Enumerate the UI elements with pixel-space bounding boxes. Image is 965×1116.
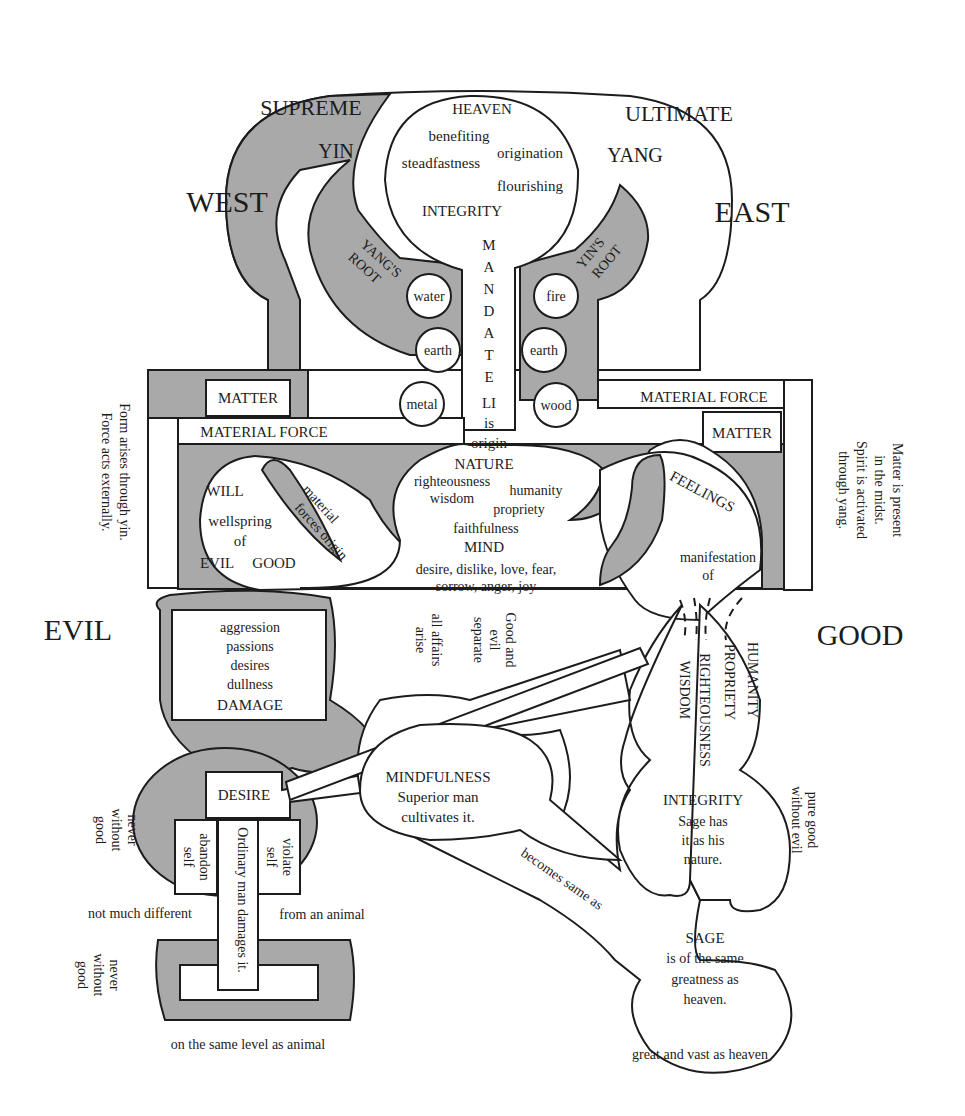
integrity-sage-title: INTEGRITY xyxy=(663,792,743,808)
label-ultimate: ULTIMATE xyxy=(625,101,733,126)
mind-title: MIND xyxy=(464,539,504,555)
svg-text:pure good: pure good xyxy=(805,792,820,848)
never-without-good-lower: never without good xyxy=(75,954,122,997)
svg-text:LI: LI xyxy=(482,395,496,411)
evil-structure xyxy=(133,591,384,1020)
feelings-of: of xyxy=(702,568,714,583)
label-yin: YIN xyxy=(318,140,354,162)
svg-text:arise: arise xyxy=(413,627,428,653)
will-good: GOOD xyxy=(252,555,295,571)
pure-good-label: pure good without evil xyxy=(789,786,820,853)
sage-title: SAGE xyxy=(685,930,724,946)
great-and-vast-label: great and vast as heaven xyxy=(632,1047,768,1062)
svg-text:separate: separate xyxy=(471,617,486,663)
label-evil: EVIL xyxy=(44,613,112,646)
will-wellspring: wellspring xyxy=(208,513,272,529)
mindfulness-line-1: Superior man xyxy=(397,789,479,805)
svg-text:all affairs: all affairs xyxy=(429,614,444,667)
nature-righteousness: righteousness xyxy=(414,474,490,489)
mindfulness-line-2: cultivates it. xyxy=(401,809,474,825)
svg-text:origin: origin xyxy=(471,435,507,451)
sage-line-1: is of the same xyxy=(666,951,743,966)
heaven-virtue-flourishing: flourishing xyxy=(497,178,563,194)
will-evil: EVIL xyxy=(200,555,234,571)
svg-text:self: self xyxy=(264,847,279,868)
label-yang: YANG xyxy=(607,144,663,166)
neo-confucian-diagram: SUPREME ULTIMATE WEST EAST EVIL GOOD HEA… xyxy=(0,0,965,1116)
side-note-left: Form arises through yin. Force acts exte… xyxy=(99,403,132,541)
virtue-wisdom: WISDOM xyxy=(677,661,692,720)
from-an-animal-label: from an animal xyxy=(279,907,365,922)
heaven-integrity: INTEGRITY xyxy=(422,203,502,219)
ordinary-man-label: Ordinary man damages it. xyxy=(235,827,250,972)
damage-dullness: dullness xyxy=(227,677,273,692)
nature-wisdom: wisdom xyxy=(430,491,474,506)
damage-passions: passions xyxy=(226,639,273,654)
heaven-title: HEAVEN xyxy=(452,101,512,117)
svg-text:A: A xyxy=(484,325,495,341)
mindfulness-title: MINDFULNESS xyxy=(385,769,490,785)
nature-humanity: humanity xyxy=(510,483,563,498)
damage-aggression: aggression xyxy=(220,620,280,635)
sage-line-2: greatness as xyxy=(671,972,738,987)
label-east: EAST xyxy=(715,195,790,228)
desire-title: DESIRE xyxy=(218,787,271,803)
feelings-manifestation: manifestation xyxy=(680,550,756,565)
svg-text:Good and: Good and xyxy=(503,613,518,668)
svg-text:Spirit is activated: Spirit is activated xyxy=(854,441,869,539)
element-fire-label: fire xyxy=(546,289,565,304)
nature-faithfulness: faithfulness xyxy=(453,521,518,536)
svg-text:good: good xyxy=(75,961,90,989)
will-title: WILL xyxy=(206,483,243,499)
element-water-label: water xyxy=(413,289,444,304)
svg-text:Form arises through yin.: Form arises through yin. xyxy=(117,403,132,541)
integrity-sage-line-3: nature. xyxy=(684,852,722,867)
mind-emotions-2: sorrow, anger, joy xyxy=(436,579,536,594)
svg-text:without evil: without evil xyxy=(789,786,804,853)
material-force-right-label: MATERIAL FORCE xyxy=(640,389,767,405)
svg-text:is: is xyxy=(484,415,494,431)
svg-text:self: self xyxy=(181,847,196,868)
svg-text:T: T xyxy=(484,347,493,363)
damage-title: DAMAGE xyxy=(217,697,283,713)
svg-text:A: A xyxy=(484,259,495,275)
not-much-different-label: not much different xyxy=(88,906,192,921)
heaven-virtue-steadfastness: steadfastness xyxy=(402,155,480,171)
mind-emotions-1: desire, dislike, love, fear, xyxy=(416,562,557,577)
svg-text:never: never xyxy=(125,814,140,845)
nature-propriety: propriety xyxy=(493,502,544,517)
matter-left-label: MATTER xyxy=(218,390,278,406)
svg-text:N: N xyxy=(484,281,495,297)
svg-text:Force acts externally.: Force acts externally. xyxy=(99,412,114,531)
virtue-humanity: HUMANITY xyxy=(745,642,760,718)
material-force-left-label: MATERIAL FORCE xyxy=(200,424,327,440)
label-supreme: SUPREME xyxy=(260,95,361,120)
all-affairs-arise-label: all affairs arise xyxy=(413,614,444,667)
svg-text:evil: evil xyxy=(487,630,502,651)
svg-text:good: good xyxy=(93,816,108,844)
svg-text:never: never xyxy=(107,959,122,990)
svg-text:violate: violate xyxy=(280,838,295,876)
element-wood-label: wood xyxy=(540,398,571,413)
svg-text:without: without xyxy=(91,954,106,997)
nature-title: NATURE xyxy=(454,456,513,472)
svg-text:through yang.: through yang. xyxy=(836,451,851,529)
will-of: of xyxy=(234,533,247,549)
svg-text:M: M xyxy=(482,237,495,253)
damage-desires: desires xyxy=(231,658,270,673)
never-without-good-upper: never without good xyxy=(93,809,140,852)
element-earth-left-label: earth xyxy=(424,343,452,358)
element-earth-right-label: earth xyxy=(530,343,558,358)
element-metal-label: metal xyxy=(406,397,437,412)
label-west: WEST xyxy=(186,185,268,218)
integrity-sage-line-1: Sage has xyxy=(678,814,727,829)
svg-text:E: E xyxy=(484,369,493,385)
svg-text:without: without xyxy=(109,809,124,852)
label-good: GOOD xyxy=(817,618,904,651)
same-level-label: on the same level as animal xyxy=(171,1037,325,1052)
svg-text:D: D xyxy=(484,303,495,319)
side-note-right: Matter is present in the midst. Spirit i… xyxy=(836,441,905,539)
svg-text:in the midst.: in the midst. xyxy=(872,455,887,525)
svg-text:abandon: abandon xyxy=(197,833,212,880)
heaven-virtue-benefiting: benefiting xyxy=(429,128,490,144)
